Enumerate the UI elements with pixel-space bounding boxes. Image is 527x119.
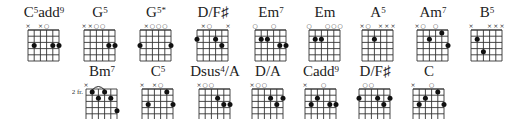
open-string-icon: ○ bbox=[156, 22, 161, 29]
finger-dot bbox=[313, 37, 318, 42]
open-string-icon: ○ bbox=[203, 81, 208, 88]
finger-dot bbox=[171, 102, 176, 107]
chord-name: C bbox=[399, 63, 459, 79]
chord-name: G5* bbox=[126, 4, 186, 20]
chord-diagram: D/F♯○○ bbox=[345, 63, 405, 119]
finger-dot bbox=[195, 37, 200, 42]
chord-name: B5 bbox=[457, 4, 517, 20]
muted-string-icon: × bbox=[201, 22, 206, 29]
finger-dot bbox=[475, 37, 480, 42]
finger-dot bbox=[113, 43, 118, 48]
muted-string-icon: × bbox=[249, 81, 254, 88]
chord-name-part: 7 bbox=[111, 64, 116, 74]
muted-string-icon: × bbox=[81, 22, 86, 29]
chord-name: Bm7 bbox=[72, 63, 132, 79]
chord-name-part: B bbox=[480, 4, 490, 20]
chord-name-part: 9 bbox=[335, 64, 340, 74]
finger-dot bbox=[435, 90, 440, 95]
chord-name: D/F♯ bbox=[183, 4, 243, 20]
chord-name: Dsus4/A bbox=[185, 63, 245, 79]
finger-dot bbox=[164, 90, 169, 95]
chord-name-part: 5 bbox=[103, 5, 108, 15]
open-string-icon: ○ bbox=[207, 22, 212, 29]
finger-dot bbox=[108, 96, 113, 101]
finger-dot bbox=[138, 43, 143, 48]
fretboard-grid: ○○ bbox=[241, 21, 301, 63]
fretboard-grid: ×○× bbox=[183, 21, 243, 63]
finger-dot bbox=[57, 43, 62, 48]
chord-name: Em7 bbox=[241, 4, 301, 20]
muted-string-icon: × bbox=[152, 81, 157, 88]
muted-string-icon: × bbox=[493, 22, 498, 29]
finger-dot bbox=[213, 37, 218, 42]
finger-dot bbox=[259, 37, 264, 42]
chord-diagram: A5×○××× bbox=[348, 4, 408, 62]
open-string-icon: ○ bbox=[262, 81, 267, 88]
fretboard-grid: ×○○ bbox=[403, 21, 463, 63]
finger-dot bbox=[309, 102, 314, 107]
chord-diagram: G5××○○ bbox=[70, 4, 130, 62]
fret-position-label: 2 fr. bbox=[72, 88, 83, 96]
fretboard-grid: ××○ bbox=[14, 21, 74, 63]
chord-name-part: 5 bbox=[381, 5, 386, 15]
chord-name-part: C bbox=[424, 63, 434, 79]
finger-dot bbox=[32, 43, 37, 48]
fretboard-grid: ×○××× bbox=[348, 21, 408, 63]
open-string-icon: ○ bbox=[271, 22, 276, 29]
fretboard-grid: ×○ bbox=[291, 80, 351, 119]
finger-dot bbox=[481, 49, 486, 54]
muted-string-icon: × bbox=[378, 22, 383, 29]
chord-name-part: 7 bbox=[279, 5, 284, 15]
muted-string-icon: × bbox=[410, 81, 415, 88]
finger-dot bbox=[102, 90, 107, 95]
chord-name-part: 4 bbox=[220, 64, 225, 74]
chord-name-part: 9 bbox=[60, 5, 65, 15]
chord-diagram: G5*×○○○ bbox=[126, 4, 186, 62]
fretboard-grid: ××○○ bbox=[70, 21, 130, 63]
muted-string-icon: × bbox=[139, 81, 144, 88]
chord-diagram: Bm7×2 fr. bbox=[72, 63, 132, 119]
chord-diagram: D/A×○○ bbox=[238, 63, 298, 119]
muted-string-icon: × bbox=[196, 81, 201, 88]
finger-dot bbox=[146, 102, 151, 107]
open-string-icon: ○ bbox=[363, 81, 368, 88]
finger-dot bbox=[427, 37, 432, 42]
finger-dot bbox=[221, 102, 226, 107]
muted-string-icon: × bbox=[487, 22, 492, 29]
finger-dot bbox=[319, 37, 324, 42]
finger-dot bbox=[169, 43, 174, 48]
finger-dot bbox=[219, 43, 224, 48]
muted-string-icon: × bbox=[499, 22, 504, 29]
open-string-icon: ○ bbox=[321, 81, 326, 88]
fretboard-grid: ×2 fr. bbox=[72, 80, 132, 119]
finger-dot bbox=[277, 43, 282, 48]
chord-diagram: Em7○○ bbox=[241, 4, 301, 62]
muted-string-icon: × bbox=[384, 22, 389, 29]
finger-dot bbox=[388, 96, 393, 101]
finger-dot bbox=[106, 43, 111, 48]
finger-dot bbox=[423, 96, 428, 101]
chord-name: D/A bbox=[238, 63, 298, 79]
open-string-icon: ○ bbox=[331, 22, 336, 29]
open-string-icon: ○ bbox=[162, 22, 167, 29]
fretboard-grid: ×○○ bbox=[185, 80, 245, 119]
chord-diagram: C5××○ bbox=[128, 63, 188, 119]
open-string-icon: ○ bbox=[150, 22, 155, 29]
chord-name-part: C bbox=[303, 63, 313, 79]
open-string-icon: ○ bbox=[369, 81, 374, 88]
open-string-icon: ○ bbox=[158, 81, 163, 88]
chord-name-part: G bbox=[146, 4, 157, 20]
muted-string-icon: × bbox=[83, 81, 88, 88]
fretboard-grid: ×××× bbox=[457, 21, 517, 63]
open-string-icon: ○ bbox=[94, 22, 99, 29]
finger-dot bbox=[446, 43, 451, 48]
chord-diagram: Em○○○○ bbox=[295, 4, 355, 62]
muted-string-icon: × bbox=[302, 81, 307, 88]
chord-name: D/F♯ bbox=[345, 63, 405, 79]
muted-string-icon: × bbox=[414, 22, 419, 29]
finger-dot bbox=[115, 108, 120, 113]
finger-dot bbox=[375, 96, 380, 101]
chord-name: C5 bbox=[128, 63, 188, 79]
chord-name-part: G bbox=[92, 4, 103, 20]
finger-dot bbox=[281, 96, 286, 101]
